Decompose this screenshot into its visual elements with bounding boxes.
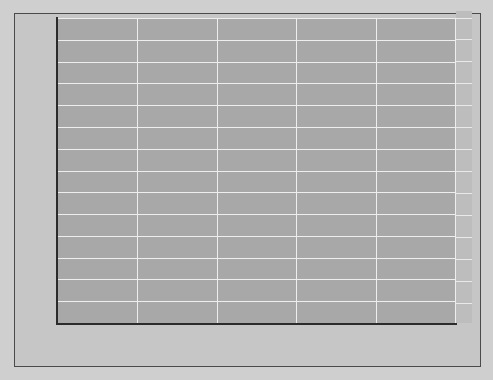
gridline-vertical	[296, 18, 297, 323]
sidewall-tick	[456, 259, 472, 260]
sidewall-tick	[456, 149, 472, 150]
plot-side-wall	[456, 11, 472, 323]
gridline-vertical	[376, 18, 377, 323]
sidewall-tick	[456, 105, 472, 106]
sidewall-tick	[456, 215, 472, 216]
gridline-horizontal	[57, 83, 456, 84]
gridline-horizontal	[57, 279, 456, 280]
x-axis-line	[56, 323, 457, 325]
gridline-horizontal	[57, 127, 456, 128]
sidewall-tick	[456, 83, 472, 84]
sidewall-tick	[456, 18, 472, 19]
y-axis-line	[56, 17, 58, 324]
gridline-vertical	[137, 18, 138, 323]
gridline-horizontal	[57, 192, 456, 193]
chart-figure	[0, 0, 493, 380]
sidewall-tick	[456, 281, 472, 282]
gridline-horizontal	[57, 301, 456, 302]
gridline-horizontal	[57, 258, 456, 259]
sidewall-tick	[456, 39, 472, 40]
sidewall-tick	[456, 171, 472, 172]
sidewall-tick	[456, 127, 472, 128]
y-axis-ticks	[8, 0, 54, 380]
gridline-horizontal	[57, 149, 456, 150]
sidewall-tick	[456, 237, 472, 238]
gridline-horizontal	[57, 236, 456, 237]
gridline-horizontal	[57, 62, 456, 63]
gridline-vertical	[217, 18, 218, 323]
gridline-horizontal	[57, 105, 456, 106]
sidewall-tick	[456, 61, 472, 62]
plot-area	[57, 18, 456, 323]
gridline-horizontal	[57, 171, 456, 172]
sidewall-tick	[456, 303, 472, 304]
sidewall-tick	[456, 193, 472, 194]
gridline-horizontal	[57, 214, 456, 215]
gridline-horizontal	[57, 40, 456, 41]
gridline-horizontal	[57, 18, 456, 19]
